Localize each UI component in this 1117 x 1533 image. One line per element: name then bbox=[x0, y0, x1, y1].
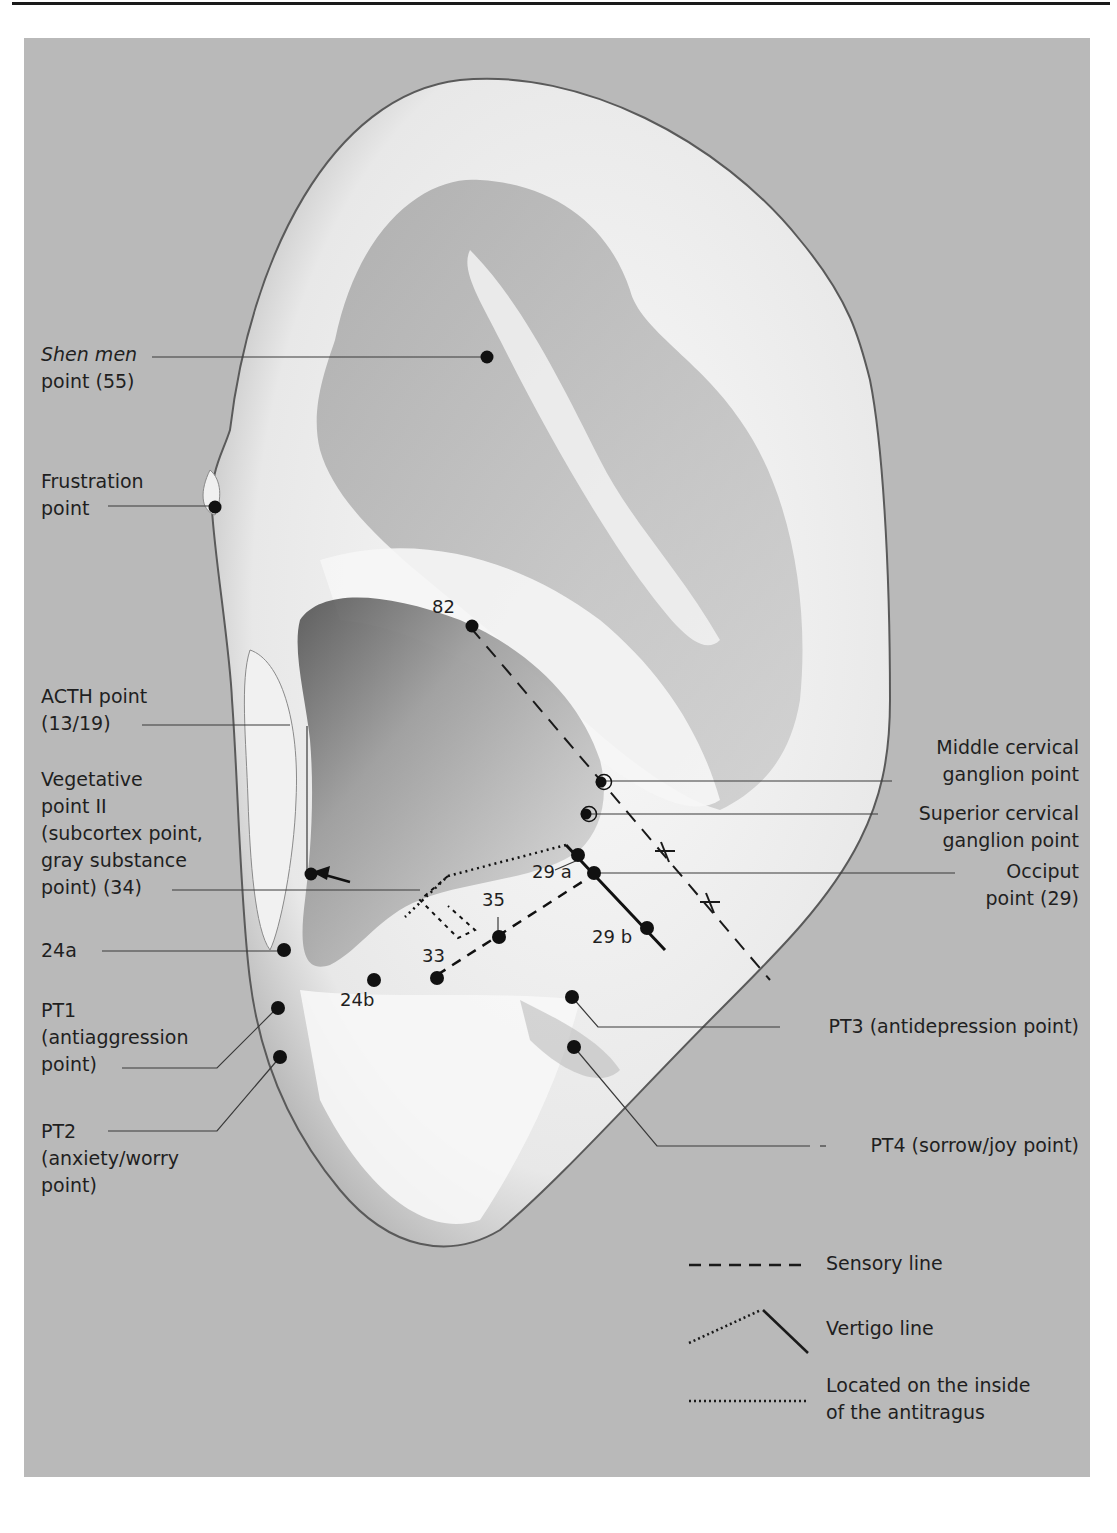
legend-sensory-label: Sensory line bbox=[826, 1250, 943, 1277]
label-pt4: PT4 (sorrow/joy point) bbox=[870, 1132, 1079, 1159]
point-pt2 bbox=[273, 1050, 287, 1064]
label-frustration: Frustration point bbox=[41, 468, 144, 522]
point-35 bbox=[492, 930, 506, 944]
label-vegetative: Vegetative point II (subcortex point, gr… bbox=[41, 766, 203, 901]
point-29b bbox=[640, 921, 654, 935]
label-shen-men: Shen men point (55) bbox=[41, 341, 137, 395]
point-pt3 bbox=[565, 990, 579, 1004]
label-superior-cervical: Superior cervical ganglion point bbox=[919, 800, 1079, 854]
point-pt4 bbox=[567, 1040, 581, 1054]
label-24a: 24a bbox=[41, 937, 77, 964]
point-24b bbox=[367, 973, 381, 987]
legend-vertigo-label: Vertigo line bbox=[826, 1315, 934, 1342]
point-29 bbox=[587, 866, 601, 880]
legend-inside-label: Located on the inside of the antitragus bbox=[826, 1372, 1030, 1426]
point-24a bbox=[277, 943, 291, 957]
point-shen-men bbox=[481, 351, 494, 364]
label-pt3: PT3 (antidepression point) bbox=[828, 1013, 1079, 1040]
label-middle-cervical: Middle cervical ganglion point bbox=[936, 734, 1079, 788]
point-82 bbox=[466, 620, 479, 633]
number-29a: 29 a bbox=[532, 862, 572, 882]
label-occiput: Occiput point (29) bbox=[986, 858, 1080, 912]
number-33: 33 bbox=[422, 946, 445, 966]
number-35: 35 bbox=[482, 890, 505, 910]
label-pt2: PT2 (anxiety/worry point) bbox=[41, 1118, 179, 1199]
number-82: 82 bbox=[432, 597, 455, 617]
point-34 bbox=[305, 868, 318, 881]
number-24b: 24b bbox=[340, 990, 374, 1010]
legend-vertigo-swatch-dotted bbox=[689, 1310, 761, 1343]
point-33 bbox=[430, 971, 444, 985]
label-acth: ACTH point (13/19) bbox=[41, 683, 147, 737]
number-29b: 29 b bbox=[592, 927, 632, 947]
label-pt1: PT1 (antiaggression point) bbox=[41, 997, 188, 1078]
point-pt1 bbox=[271, 1001, 285, 1015]
legend-vertigo-swatch-solid bbox=[763, 1310, 808, 1353]
point-29a bbox=[571, 848, 585, 862]
point-frustration bbox=[209, 501, 222, 514]
